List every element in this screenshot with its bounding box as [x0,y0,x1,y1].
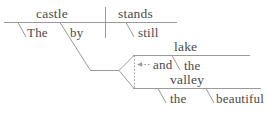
conjunction-arrowhead-icon [137,62,142,67]
object-upper-label: lake [174,40,197,54]
subject-label: castle [36,7,68,21]
subject-article-label: The [27,26,48,39]
modifier-slant-the-lake [172,56,180,71]
conjunction-label: and [153,58,172,71]
modifier-slant-the-subject [18,23,26,38]
sentence-diagram: castle The by stands still and lake the … [0,0,272,116]
adverb-label: still [138,26,159,39]
compound-fork-upper [119,56,134,71]
modifier-slant-still [126,23,134,38]
verb-label: stands [118,7,153,21]
modifier-slant-the-valley [158,89,166,104]
object-lower-article-label: the [170,92,186,105]
object-lower-adjective-label: beautiful [216,92,264,105]
object-upper-article-label: the [184,59,200,72]
modifier-slant-beautiful [206,89,214,104]
preposition-label: by [70,26,83,39]
compound-fork-lower [119,71,134,89]
object-lower-label: valley [170,73,204,87]
